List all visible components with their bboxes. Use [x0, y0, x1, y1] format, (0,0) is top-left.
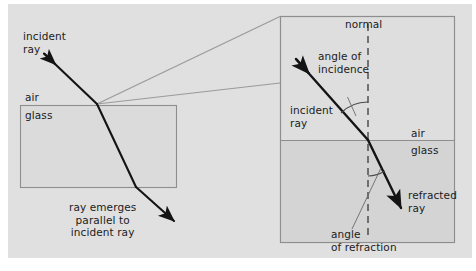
left-emergent-ray	[136, 187, 174, 221]
right-incident-ray-label: incident ray	[290, 104, 333, 129]
left-incident-ray	[44, 54, 97, 105]
figure-canvas: incident ray air glass ray emerges paral…	[0, 0, 476, 271]
normal-label: normal	[345, 18, 382, 31]
right-air-label: air	[411, 127, 425, 140]
angle-of-incidence-label: angle of incidence	[318, 50, 369, 75]
angle-of-refraction-label: angle of refraction	[331, 228, 397, 253]
left-glass-label: glass	[25, 109, 52, 122]
right-glass-label: glass	[411, 144, 438, 157]
left-incident-ray-label: incident ray	[23, 30, 66, 55]
magnification-lines	[97, 17, 280, 105]
refracted-ray-label: refracted ray	[408, 189, 457, 214]
left-air-label: air	[25, 91, 39, 104]
parallel-ray-note: ray emerges parallel to incident ray	[69, 201, 136, 239]
